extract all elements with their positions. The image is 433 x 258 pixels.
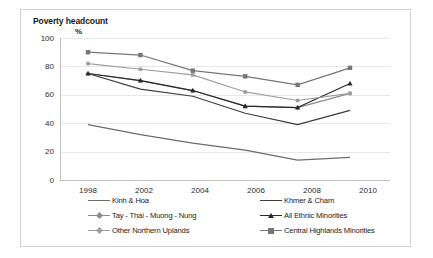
y-tick-20: 20 — [24, 147, 54, 156]
legend-item-all-ethnic-minorities[interactable]: All Ethnic Minorities — [260, 211, 347, 220]
x-axis-line — [60, 180, 390, 181]
x-tick-1998: 1998 — [68, 186, 108, 195]
legend-marker-central-highlands-minorities — [260, 226, 282, 235]
chart-figure: Poverty headcount % 100 80 60 40 20 0 19… — [0, 0, 433, 258]
chart-subtitle: % — [75, 27, 82, 36]
legend-item-kinh-hoa[interactable]: Kinh & Hoa — [88, 196, 149, 205]
legend-item-central-highlands-minorities[interactable]: Central Highlands Minorities — [260, 226, 375, 235]
chart-legend: Kinh & Hoa Tay - Thai - Muong - Nung Oth… — [88, 196, 408, 242]
series-marker-4-3 — [243, 90, 247, 94]
legend-marker-all-ethnic-minorities — [260, 211, 282, 220]
y-tick-80: 80 — [24, 62, 54, 71]
series-marker-4-4 — [296, 99, 300, 103]
x-tick-2010: 2010 — [348, 186, 388, 195]
legend-label-other-northern-uplands: Other Northern Uplands — [112, 226, 189, 235]
series-marker-5-4 — [295, 83, 299, 87]
series-lines — [60, 38, 390, 180]
series-marker-3-5 — [347, 81, 352, 86]
series-marker-4-1 — [139, 67, 143, 71]
legend-marker-tay-thai-muong-nung — [88, 211, 110, 220]
legend-item-khmer-cham[interactable]: Khmer & Cham — [260, 196, 334, 205]
series-line-3 — [88, 74, 350, 108]
series-marker-5-5 — [348, 66, 352, 70]
series-line-5 — [88, 52, 350, 85]
series-marker-5-0 — [86, 50, 90, 54]
series-marker-4-5 — [348, 92, 352, 96]
series-line-0 — [88, 125, 350, 160]
legend-label-khmer-cham: Khmer & Cham — [284, 196, 334, 205]
chart-title: Poverty headcount — [33, 16, 108, 26]
legend-label-kinh-hoa: Kinh & Hoa — [112, 196, 149, 205]
series-marker-5-2 — [191, 68, 195, 72]
y-tick-100: 100 — [24, 34, 54, 43]
legend-marker-kinh-hoa — [88, 196, 110, 205]
x-tick-2006: 2006 — [236, 186, 276, 195]
y-tick-0: 0 — [24, 176, 54, 185]
legend-label-all-ethnic-minorities: All Ethnic Minorities — [284, 211, 347, 220]
y-tick-40: 40 — [24, 119, 54, 128]
x-tick-2002: 2002 — [124, 186, 164, 195]
y-tick-60: 60 — [24, 90, 54, 99]
legend-marker-khmer-cham — [260, 196, 282, 205]
legend-item-other-northern-uplands[interactable]: Other Northern Uplands — [88, 226, 189, 235]
x-tick-2008: 2008 — [292, 186, 332, 195]
series-marker-4-2 — [191, 73, 195, 77]
series-marker-4-0 — [86, 62, 90, 66]
legend-label-central-highlands-minorities: Central Highlands Minorities — [284, 226, 375, 235]
legend-label-tay-thai-muong-nung: Tay - Thai - Muong - Nung — [112, 211, 196, 220]
series-line-4 — [88, 64, 350, 101]
x-tick-2004: 2004 — [180, 186, 220, 195]
series-marker-5-1 — [138, 53, 142, 57]
legend-item-tay-thai-muong-nung[interactable]: Tay - Thai - Muong - Nung — [88, 211, 196, 220]
series-marker-5-3 — [243, 74, 247, 78]
legend-marker-other-northern-uplands — [88, 226, 110, 235]
